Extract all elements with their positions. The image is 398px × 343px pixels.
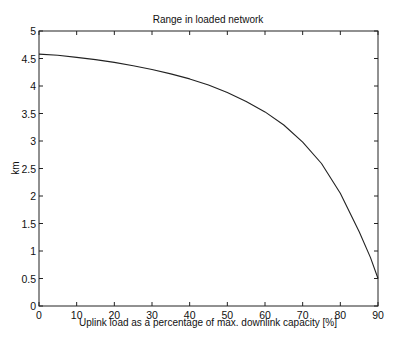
plot-frame (39, 31, 378, 306)
series-line-range (39, 54, 378, 278)
chart-title: Range in loaded network (153, 14, 265, 25)
y-tick-label: 0.5 (21, 273, 36, 285)
y-axis-label: km (10, 161, 21, 174)
x-tick-label: 90 (372, 309, 384, 321)
y-tick-label: 1.5 (21, 218, 36, 230)
y-tick-label: 4 (30, 80, 36, 92)
y-tick-label: 5 (30, 25, 36, 37)
series-group (39, 54, 378, 278)
y-tick-label: 0 (30, 300, 36, 312)
y-tick-label: 2 (30, 190, 36, 202)
y-tick-label: 3 (30, 135, 36, 147)
y-tick-label: 1 (30, 245, 36, 257)
plot-area-border (39, 31, 378, 306)
y-tick-label: 2.5 (21, 163, 36, 175)
line-chart: Range in loaded network 0102030405060708… (0, 0, 398, 343)
y-tick-label: 3.5 (21, 108, 36, 120)
x-tick-label: 0 (36, 309, 42, 321)
x-axis-label: Uplink load as a percentage of max. down… (79, 317, 337, 328)
x-axis-ticks: 0102030405060708090 (36, 31, 384, 321)
y-tick-label: 4.5 (21, 53, 36, 65)
